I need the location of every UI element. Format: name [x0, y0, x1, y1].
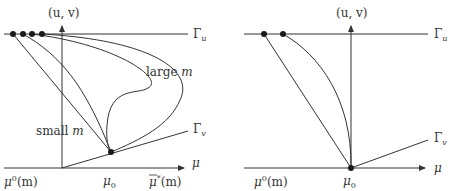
start-point-2 — [280, 31, 286, 37]
small-m-label: small m — [36, 124, 84, 138]
start-point-1 — [261, 31, 267, 37]
gamma-u-label: Γu — [434, 27, 447, 43]
start-point-4 — [39, 31, 45, 37]
convergence-point — [108, 149, 114, 155]
start-point-1 — [10, 31, 16, 37]
uv-axis-label: (u, v) — [48, 6, 80, 20]
gamma-v-label: Γv — [434, 131, 447, 147]
trajectory-curved — [283, 34, 351, 168]
mu-zero-label: μ0 — [343, 174, 356, 190]
gamma-u-label: Γu — [193, 27, 206, 43]
convergence-point — [348, 165, 354, 171]
mu-axis-label: μ — [434, 161, 442, 175]
right-panel: (u, v) Γu Γv μ μ0(m) μ0 — [244, 6, 447, 190]
svg-text:μ*(m): μ*(m) — [149, 174, 182, 189]
trajectory-straight — [264, 34, 351, 168]
diagram-canvas: (u, v) Γu Γv μ large m small m μ0(m) μ0 … — [0, 0, 451, 191]
start-point-2 — [20, 31, 26, 37]
large-m-label: large m — [146, 65, 193, 79]
left-panel: (u, v) Γu Γv μ large m small m μ0(m) μ0 … — [4, 6, 206, 190]
mu-bar-star-m-label: μ*(m) — [149, 174, 182, 189]
gamma-v-label: Γv — [193, 122, 206, 138]
mu-superscript-0-m-label: μ0(m) — [254, 174, 288, 189]
mu-axis-label: μ — [192, 156, 200, 170]
gamma-v-line — [351, 140, 428, 168]
start-point-3 — [29, 31, 35, 37]
mu-zero-label: μ0 — [103, 174, 116, 190]
mu-superscript-0-m-label: μ0(m) — [4, 174, 38, 189]
uv-axis-label: (u, v) — [336, 6, 368, 20]
